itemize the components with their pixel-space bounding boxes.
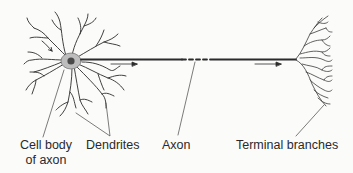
signal-arrow-axon-end-icon [255,62,281,66]
signal-arrow-axon-start-icon [111,62,137,66]
label-dendrites: Dendrites [86,138,140,153]
label-cell-body-line2: of axon [18,153,74,168]
signal-arrow-dendrite-icon [42,41,52,51]
neuron-diagram: Cell body of axon Dendrites Axon Termina… [0,0,353,173]
leader-line-terminal [296,105,324,136]
label-terminal-branches: Terminal branches [236,138,338,153]
label-cell-body: Cell body of axon [18,138,74,168]
nucleus-icon [67,57,74,64]
leader-line-axon [178,62,195,135]
terminal-branches-icon [296,16,332,106]
label-axon: Axon [162,138,191,153]
leader-line-cell-body [43,70,64,137]
label-cell-body-line1: Cell body [18,138,74,153]
leader-line-dendrites [76,103,110,136]
